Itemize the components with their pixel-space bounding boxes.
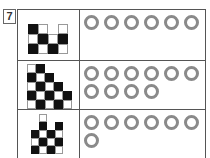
black-square bbox=[28, 44, 38, 54]
empty-space bbox=[55, 114, 63, 122]
black-square bbox=[27, 73, 36, 82]
white-square bbox=[39, 146, 47, 154]
circle-icon bbox=[164, 115, 179, 130]
empty-space bbox=[63, 73, 72, 82]
circle-icon bbox=[144, 84, 159, 99]
white-square bbox=[28, 34, 38, 44]
circle-icon bbox=[84, 133, 99, 148]
white-square bbox=[58, 44, 68, 54]
empty-space bbox=[54, 64, 63, 73]
white-square bbox=[47, 138, 55, 146]
empty-space bbox=[48, 24, 58, 34]
circle-answer-area-1 bbox=[84, 15, 204, 30]
black-square bbox=[55, 138, 63, 146]
circle-icon bbox=[184, 66, 199, 81]
circle-icon bbox=[144, 15, 159, 30]
circle-icon bbox=[144, 115, 159, 130]
circle-answer-area-3 bbox=[84, 115, 204, 148]
question-number: 7 bbox=[3, 9, 16, 24]
white-square bbox=[54, 91, 63, 100]
circle-icon bbox=[164, 15, 179, 30]
empty-space bbox=[63, 64, 72, 73]
circle-icon bbox=[104, 84, 119, 99]
white-square bbox=[38, 24, 48, 34]
black-square bbox=[38, 34, 48, 44]
black-square bbox=[31, 146, 39, 154]
white-square bbox=[58, 24, 68, 34]
white-square bbox=[55, 130, 63, 138]
pattern-cell bbox=[18, 61, 80, 109]
black-square bbox=[28, 24, 38, 34]
white-square bbox=[38, 44, 48, 54]
circle-icon bbox=[104, 115, 119, 130]
circle-icon bbox=[144, 66, 159, 81]
black-square bbox=[55, 122, 63, 130]
circle-icon bbox=[124, 84, 139, 99]
pattern-cell bbox=[18, 10, 80, 60]
white-square bbox=[27, 64, 36, 73]
table-row-2 bbox=[18, 61, 205, 110]
black-square bbox=[63, 91, 72, 100]
empty-space bbox=[47, 114, 55, 122]
white-square bbox=[27, 82, 36, 91]
black-square bbox=[36, 82, 45, 91]
circle-icon bbox=[104, 66, 119, 81]
black-square bbox=[47, 130, 55, 138]
black-square bbox=[45, 73, 54, 82]
black-square bbox=[39, 122, 47, 130]
white-square bbox=[45, 82, 54, 91]
white-square bbox=[63, 100, 72, 109]
table-row-3 bbox=[18, 110, 205, 158]
circle-icon bbox=[104, 15, 119, 30]
circle-icon bbox=[184, 115, 199, 130]
white-square bbox=[48, 34, 58, 44]
black-square bbox=[54, 100, 63, 109]
black-square bbox=[58, 34, 68, 44]
circle-icon bbox=[84, 84, 99, 99]
checker-pattern-1 bbox=[28, 24, 68, 54]
black-square bbox=[27, 91, 36, 100]
white-square bbox=[31, 138, 39, 146]
white-square bbox=[55, 146, 63, 154]
checker-pattern-2 bbox=[27, 64, 72, 109]
circle-icon bbox=[124, 15, 139, 30]
circle-icon bbox=[84, 15, 99, 30]
black-square bbox=[45, 91, 54, 100]
black-square bbox=[39, 138, 47, 146]
circle-icon bbox=[84, 115, 99, 130]
circle-icon bbox=[124, 66, 139, 81]
white-square bbox=[36, 91, 45, 100]
checker-pattern-3 bbox=[31, 114, 63, 154]
white-square bbox=[39, 114, 47, 122]
circle-icon bbox=[164, 66, 179, 81]
empty-space bbox=[54, 73, 63, 82]
black-square bbox=[31, 130, 39, 138]
empty-space bbox=[45, 64, 54, 73]
circle-answer-area-2 bbox=[84, 66, 204, 99]
answer-table bbox=[17, 9, 206, 158]
black-square bbox=[47, 146, 55, 154]
black-square bbox=[36, 64, 45, 73]
black-square bbox=[36, 100, 45, 109]
circle-icon bbox=[184, 15, 199, 30]
white-square bbox=[45, 100, 54, 109]
black-square bbox=[54, 82, 63, 91]
pattern-cell bbox=[18, 110, 80, 158]
black-square bbox=[48, 44, 58, 54]
empty-space bbox=[31, 122, 39, 130]
white-square bbox=[39, 130, 47, 138]
circle-icon bbox=[124, 115, 139, 130]
table-row-1 bbox=[18, 10, 205, 61]
circle-icon bbox=[84, 66, 99, 81]
empty-space bbox=[31, 114, 39, 122]
empty-space bbox=[47, 122, 55, 130]
white-square bbox=[27, 100, 36, 109]
white-square bbox=[36, 73, 45, 82]
empty-space bbox=[63, 82, 72, 91]
